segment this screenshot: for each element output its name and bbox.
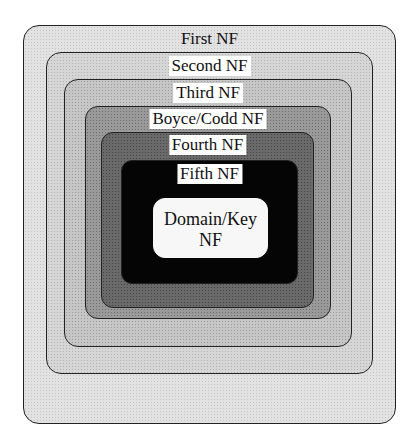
domain-key-nf-label: Domain/Key NF: [154, 209, 267, 251]
fifth-nf-label: Fifth NF: [177, 164, 242, 184]
domain-key-line1: Domain/Key: [154, 209, 267, 230]
fourth-nf-label: Fourth NF: [169, 135, 246, 155]
domain-key-line2: NF: [154, 230, 267, 251]
second-nf-label: Second NF: [168, 56, 250, 76]
third-nf-label: Third NF: [173, 83, 243, 103]
domain-key-nf-region: Domain/Key NF: [153, 198, 268, 258]
first-nf-label: First NF: [178, 29, 241, 49]
boyce-codd-nf-label: Boyce/Codd NF: [150, 109, 267, 129]
